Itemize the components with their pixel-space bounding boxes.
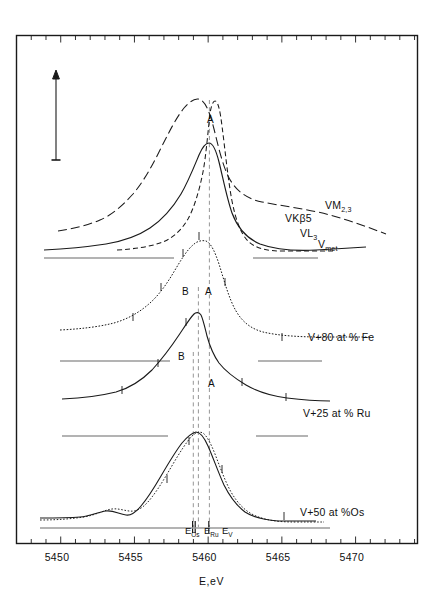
energy-marker-E-Os: EOs xyxy=(185,525,200,538)
curve-group-os xyxy=(40,432,330,528)
data-point-ticks-ru xyxy=(122,318,286,401)
figure-container: 54505455546054655470E,eVEOsERuEVVM2,3VKβ… xyxy=(0,0,442,604)
x-tick-label-5450: 5450 xyxy=(45,551,70,563)
curve-label-VKbeta5: VKβ5 xyxy=(285,212,312,224)
data-point-ticks-os xyxy=(167,437,284,520)
curve-label-sample-ru: V+25 at % Ru xyxy=(303,407,370,419)
peak-A-fe: A xyxy=(205,286,212,297)
curve-group-v-metal xyxy=(44,99,386,258)
x-tick-label-5460: 5460 xyxy=(192,551,217,563)
curve-group-ru xyxy=(62,313,330,436)
x-tick-label-5465: 5465 xyxy=(266,551,291,563)
peak-A-ru: A xyxy=(208,378,215,389)
curve-label-VL3: VL3 xyxy=(300,227,317,242)
peak-A-top: A xyxy=(207,114,214,125)
peak-B-fe: B xyxy=(182,286,189,297)
curve-V50Os-dotted xyxy=(40,432,324,522)
x-tick-label-5470: 5470 xyxy=(340,551,365,563)
curve-label-VM23: VM2,3 xyxy=(325,199,352,214)
curve-V80Fe xyxy=(60,241,370,337)
curve-V50Os-solid xyxy=(40,432,316,521)
peak-B-ru: B xyxy=(178,351,185,362)
energy-marker-E-Ru: ERu xyxy=(204,525,219,538)
curve-label-sample-fe: V+80 at % Fe xyxy=(308,331,374,343)
x-tick-label-5455: 5455 xyxy=(118,551,143,563)
spectra-plot xyxy=(0,0,442,604)
energy-marker-E-V: EV xyxy=(222,525,233,538)
curve-label-sample-os: V+50 at %Os xyxy=(300,506,364,518)
x-axis-title: E,eV xyxy=(199,575,224,587)
top-axis-ticks xyxy=(17,36,415,43)
curve-VL3 xyxy=(44,143,366,250)
curve-label-Vmet: Vmet xyxy=(318,238,338,253)
intensity-arrow-icon xyxy=(52,70,61,160)
